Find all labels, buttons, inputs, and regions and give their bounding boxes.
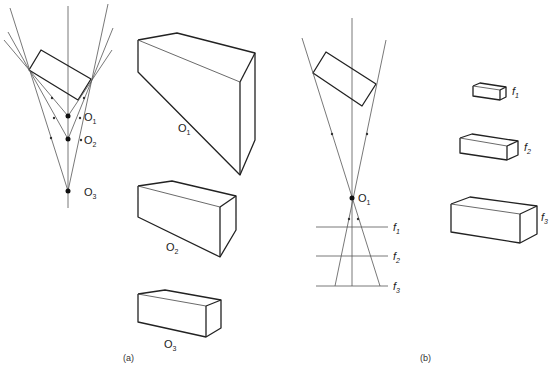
point-o1 bbox=[350, 196, 355, 201]
label-o3: O3 bbox=[84, 186, 97, 200]
perspective-diagram: O1 O2 O3 O1 O2 O3 (a) O1 bbox=[0, 0, 551, 373]
box-view-f1: f1 bbox=[473, 83, 519, 100]
box-view-o2: O2 bbox=[138, 181, 236, 257]
caption-b: (b) bbox=[420, 353, 431, 363]
ray-left-o3 bbox=[10, 8, 68, 191]
ray-left-o2 bbox=[8, 32, 68, 139]
label-view-o3: O3 bbox=[164, 338, 177, 352]
ray-left bbox=[302, 38, 380, 286]
label-view-o1: O1 bbox=[178, 122, 191, 136]
label-plane-f3: f3 bbox=[393, 280, 400, 294]
label-plane-f1: f1 bbox=[393, 221, 400, 235]
point-o1 bbox=[66, 114, 71, 119]
label-view-o2: O2 bbox=[166, 241, 179, 255]
label-plane-f2: f2 bbox=[393, 250, 400, 264]
label-view-f1: f1 bbox=[512, 85, 519, 99]
label-o1: O1 bbox=[84, 111, 97, 125]
label-view-f2: f2 bbox=[524, 141, 531, 155]
panel-b-ray-diagram: O1 f1 f2 f3 bbox=[302, 18, 400, 294]
ray-left-o1 bbox=[4, 40, 68, 116]
box-view-f2: f2 bbox=[460, 134, 531, 160]
point-o2 bbox=[66, 137, 71, 142]
label-o2: O2 bbox=[84, 134, 97, 148]
ray-right-o1 bbox=[68, 50, 112, 116]
box-view-f3: f3 bbox=[451, 197, 548, 243]
box-view-o3: O3 bbox=[138, 290, 221, 352]
label-view-f3: f3 bbox=[541, 211, 548, 225]
object-rectangle bbox=[313, 52, 376, 106]
point-o3 bbox=[66, 189, 71, 194]
box-view-o1: O1 bbox=[138, 33, 255, 175]
object-rectangle bbox=[29, 50, 91, 100]
panel-a-ray-diagram: O1 O2 O3 bbox=[4, 4, 113, 208]
arrowheads bbox=[331, 133, 368, 220]
label-o1: O1 bbox=[358, 192, 371, 206]
caption-a: (a) bbox=[123, 353, 134, 363]
ray-right bbox=[335, 40, 386, 286]
